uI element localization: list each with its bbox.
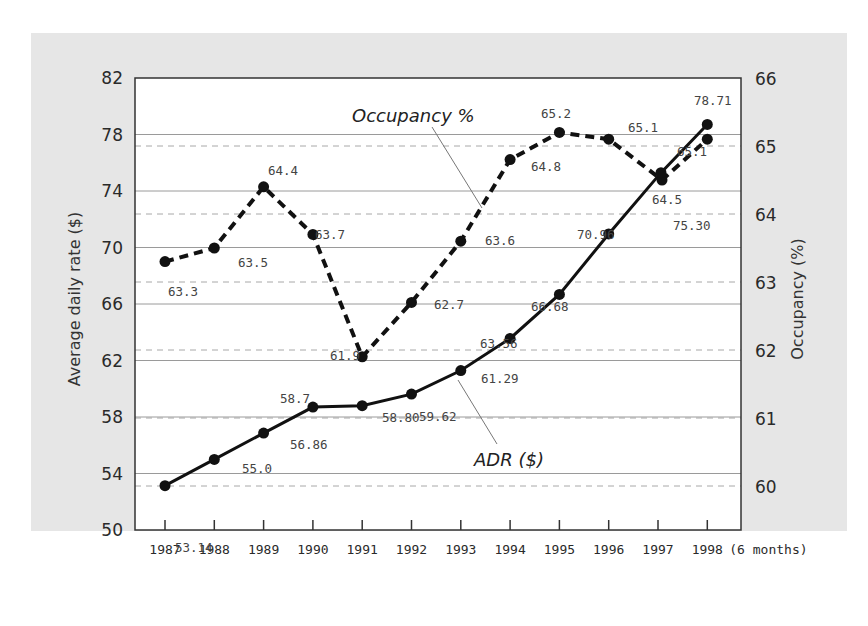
adr-data-label: 66.68 [531,299,569,314]
occupancy-data-label: 62.7 [434,297,464,312]
occupancy-marker [603,134,614,145]
x-tick-label: 1992 [396,542,427,557]
adr-data-label: 58.80 [382,410,420,425]
y-left-tick-label: 70 [101,238,123,258]
occupancy-marker [455,236,466,247]
adr-marker [455,365,466,376]
occupancy-data-label: 64.4 [268,163,298,178]
occupancy-data-label: 65.2 [541,106,571,121]
x-suffix-label: (6 months) [729,542,807,557]
occupancy-data-label: 65.1 [628,120,658,135]
y-left-axis-title: Average daily rate ($) [65,212,84,386]
occupancy-marker [406,297,417,308]
adr-data-label: 56.86 [290,437,328,452]
occupancy-data-label: 63.3 [168,284,198,299]
occupancy-marker [554,127,565,138]
adr-data-label: 58.7 [280,391,310,406]
x-tick-label: 1994 [494,542,525,557]
occupancy-data-label: 64.8 [531,159,561,174]
adr-marker [357,400,368,411]
x-tick-label: 1993 [445,542,476,557]
occupancy-data-label: 64.5 [652,192,682,207]
occupancy-marker [209,243,220,254]
y-right-tick-label: 61 [755,409,777,429]
adr-marker [656,167,667,178]
adr-data-label: 59.62 [419,409,457,424]
occupancy-marker [258,181,269,192]
y-left-tick-label: 78 [101,125,123,145]
adr-data-label: 63.56 [480,336,518,351]
adr-series-label: ADR ($) [473,449,544,470]
y-right-tick-label: 66 [755,69,777,89]
adr-marker [258,428,269,439]
y-left-tick-label: 62 [101,351,123,371]
adr-data-label: 55.0 [242,461,272,476]
occupancy-data-label: 65.1 [677,144,707,159]
y-left-tick-label: 82 [101,68,123,88]
x-tick-label: 1991 [347,542,378,557]
occupancy-data-label: 61.9 [330,348,360,363]
occupancy-data-label: 63.6 [485,233,515,248]
adr-marker [160,480,171,491]
adr-marker [406,389,417,400]
line-chart: 1987198819891990199119921993199419951996… [0,0,868,626]
adr-marker [702,119,713,130]
y-left-tick-label: 58 [101,407,123,427]
adr-data-label: 53.14 [175,540,213,555]
adr-data-label: 78.71 [694,93,732,108]
occupancy-marker [160,256,171,267]
adr-data-label: 61.29 [481,371,519,386]
occupancy-marker [505,154,516,165]
adr-data-label: 75.30 [673,218,711,233]
x-tick-label: 1998 [692,542,723,557]
y-right-axis-title: Occupancy (%) [788,238,807,359]
y-right-tick-label: 62 [755,341,777,361]
occupancy-series-label: Occupancy % [352,105,475,126]
y-left-tick-label: 54 [101,464,123,484]
x-tick-label: 1989 [248,542,279,557]
y-left-tick-label: 66 [101,294,123,314]
x-tick-label: 1990 [297,542,328,557]
adr-marker [209,454,220,465]
x-tick-label: 1995 [544,542,575,557]
x-tick-label: 1997 [642,542,673,557]
occupancy-data-label: 63.5 [238,255,268,270]
x-tick-label: 1996 [593,542,624,557]
adr-data-label: 70.96 [577,227,615,242]
y-right-tick-label: 63 [755,273,777,293]
y-right-tick-label: 60 [755,477,777,497]
occupancy-data-label: 63.7 [315,227,345,242]
y-left-tick-label: 74 [101,181,123,201]
y-right-tick-label: 65 [755,137,777,157]
y-right-tick-label: 64 [755,205,777,225]
y-left-tick-label: 50 [101,520,123,540]
